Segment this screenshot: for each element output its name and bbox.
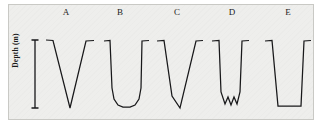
profile-label-a: A [54,7,78,17]
profile-c-trace [157,41,203,109]
y-axis-label: Depth (m) [11,24,20,78]
profile-a-trace [46,40,94,108]
profile-d-trace [212,41,249,106]
profile-label-e: E [276,7,300,17]
profile-b-trace [104,41,149,108]
profile-label-b: B [108,7,132,17]
profile-e-trace [265,41,311,107]
profile-label-c: C [165,7,189,17]
profiles-svg [0,0,324,126]
profile-label-d: D [220,7,244,17]
depth-scale-bar [32,40,39,108]
cross-section-figure: Depth (m) A B C D E [0,0,324,126]
